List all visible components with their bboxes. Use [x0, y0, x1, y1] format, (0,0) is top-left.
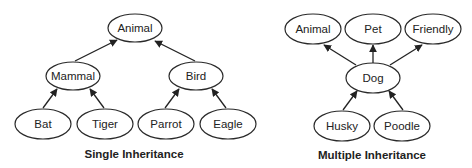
multiple-inheritance-diagram: Animal Pet Friendly Dog Husky Poodle Mul… — [285, 14, 461, 161]
single-inheritance-diagram: Animal Mammal Bird Bat Tiger Parrot Eagl… — [15, 14, 256, 160]
node-label: Poodle — [384, 120, 420, 132]
edge-poodle-dog — [389, 91, 403, 110]
inheritance-diagram: Animal Mammal Bird Bat Tiger Parrot Eagl… — [0, 0, 472, 168]
edge-bird-animal — [155, 41, 195, 61]
multiple-inheritance-caption: Multiple Inheritance — [318, 149, 426, 161]
node-label: Pet — [364, 23, 382, 35]
node-bird: Bird — [169, 62, 223, 90]
node-label: Animal — [117, 22, 152, 34]
edge-parrot-bird — [165, 89, 179, 108]
node-mammal: Mammal — [46, 62, 100, 90]
edge-bat-mammal — [43, 89, 57, 108]
node-bat: Bat — [15, 109, 71, 139]
node-label: Bat — [34, 118, 52, 130]
node-label: Tiger — [92, 118, 118, 130]
node-poodle: Poodle — [374, 111, 430, 141]
node-parrot: Parrot — [138, 109, 194, 139]
edge-husky-dog — [343, 91, 357, 110]
node-animal: Animal — [285, 14, 341, 44]
edge-mammal-animal — [75, 40, 117, 61]
node-label: Husky — [326, 120, 358, 132]
edge-tiger-mammal — [90, 89, 104, 108]
node-pet: Pet — [345, 14, 401, 44]
node-label: Friendly — [413, 23, 454, 35]
node-dog: Dog — [346, 63, 400, 93]
node-tiger: Tiger — [77, 109, 133, 139]
node-label: Eagle — [213, 118, 242, 130]
edge-eagle-bird — [212, 89, 226, 108]
node-husky: Husky — [314, 111, 370, 141]
node-label: Bird — [186, 70, 206, 82]
edge-dog-animal — [324, 45, 356, 65]
node-label: Parrot — [150, 118, 182, 130]
node-friendly: Friendly — [405, 14, 461, 44]
node-label: Animal — [295, 23, 330, 35]
edge-dog-friendly — [390, 45, 422, 65]
node-label: Dog — [362, 72, 383, 84]
node-animal: Animal — [108, 14, 162, 42]
single-inheritance-caption: Single Inheritance — [84, 148, 183, 160]
node-label: Mammal — [51, 70, 95, 82]
node-eagle: Eagle — [200, 109, 256, 139]
